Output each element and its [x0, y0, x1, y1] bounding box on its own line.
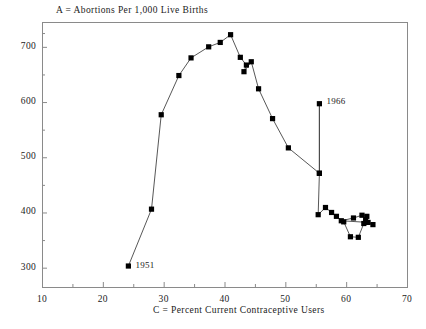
data-point-marker: [159, 112, 164, 117]
data-point-marker: [149, 207, 154, 212]
data-point-marker: [317, 101, 322, 106]
y-tick-label: 500: [10, 151, 36, 161]
data-point-marker: [317, 171, 322, 176]
data-point-marker: [256, 86, 261, 91]
data-point-marker: [316, 212, 321, 217]
data-point-marker: [365, 220, 370, 225]
chart-figure: A = Abortions Per 1,000 Live Births C = …: [0, 0, 426, 329]
data-point-marker: [249, 59, 254, 64]
y-tick-label: 700: [10, 41, 36, 51]
data-point-marker: [126, 263, 131, 268]
series-line-0: [128, 35, 373, 266]
data-point-marker: [228, 32, 233, 37]
x-tick-label: 10: [33, 294, 51, 304]
point-annotation: 1966: [326, 96, 345, 106]
plot-frame: [43, 23, 408, 288]
data-point-marker: [323, 205, 328, 210]
x-tick-label: 20: [94, 294, 112, 304]
data-point-marker: [370, 222, 375, 227]
data-point-marker: [364, 214, 369, 219]
x-tick-label: 60: [337, 294, 355, 304]
data-point-marker: [351, 215, 356, 220]
point-annotation: 1951: [135, 260, 154, 270]
plot-area: [0, 0, 426, 329]
y-tick-label: 300: [10, 262, 36, 272]
data-point-marker: [329, 210, 334, 215]
data-point-marker: [206, 44, 211, 49]
data-point-marker: [356, 235, 361, 240]
y-tick-label: 400: [10, 206, 36, 216]
data-point-marker: [270, 116, 275, 121]
data-point-marker: [188, 55, 193, 60]
data-point-marker: [339, 218, 344, 223]
x-tick-label: 50: [276, 294, 294, 304]
data-point-marker: [241, 69, 246, 74]
data-point-marker: [286, 145, 291, 150]
x-tick-label: 70: [398, 294, 416, 304]
x-tick-label: 40: [216, 294, 234, 304]
data-point-marker: [244, 62, 249, 67]
x-tick-label: 30: [155, 294, 173, 304]
data-point-marker: [359, 213, 364, 218]
data-point-marker: [348, 234, 353, 239]
data-point-marker: [176, 73, 181, 78]
data-point-marker: [238, 55, 243, 60]
y-tick-label: 600: [10, 96, 36, 106]
data-point-marker: [218, 40, 223, 45]
data-point-marker: [334, 214, 339, 219]
